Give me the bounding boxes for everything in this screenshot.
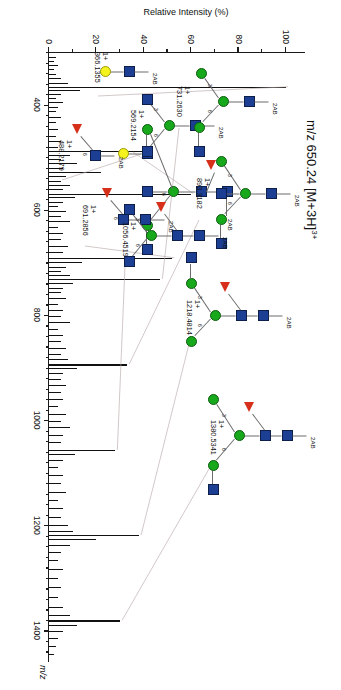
spectrum-peak — [49, 107, 58, 108]
fragment-731-charge: 1+ — [183, 86, 191, 117]
glcnac-square — [236, 310, 247, 321]
spectrum-peak — [49, 206, 58, 207]
fragment-1380-label: 1+1380.5341 — [208, 420, 225, 455]
fucose-triangle — [102, 188, 112, 198]
spectrum-peak — [49, 275, 70, 276]
linkage-label: 6 — [82, 153, 88, 156]
fragment-366-charge: 1+ — [101, 52, 109, 83]
fucose-triangle — [206, 160, 216, 170]
ms-spectrum-figure: 400600800100012001400020406080100 m/z Re… — [0, 0, 341, 690]
spectrum-peak — [49, 354, 61, 355]
spectrum-peak — [49, 262, 82, 263]
reducing-end-tag-2ab: 2AB — [222, 237, 229, 249]
glcnac-square — [282, 430, 293, 441]
glycosidic-bond — [255, 101, 269, 102]
spectrum-peak — [49, 117, 61, 118]
spectrum-peak — [49, 176, 66, 177]
spectrum-peak — [49, 172, 101, 173]
glycosidic-bond — [271, 435, 282, 436]
spectrum-peak — [49, 292, 61, 293]
reducing-end-tag-2ab: 2AB — [294, 195, 301, 207]
linkage-label: 3 — [135, 218, 141, 221]
glcnac-square — [140, 214, 151, 225]
spectrum-peak — [49, 221, 70, 222]
reducing-end-tag-2ab: 2AB — [227, 219, 234, 231]
spectrum-peak — [49, 185, 70, 186]
glcnac-square — [124, 204, 135, 215]
mannose-circle — [164, 120, 175, 131]
fragment-488-label: 1+488.2179 — [56, 140, 73, 171]
spectrum-title: m/z 650.24 [M+3H]3+ — [304, 120, 319, 239]
spectrum-peak — [49, 615, 70, 616]
spectrum-peak — [49, 368, 77, 369]
spectrum-peak — [49, 102, 63, 103]
mannose-circle — [218, 96, 229, 107]
glycosidic-bond — [227, 193, 240, 194]
spectrum-peak — [49, 189, 63, 190]
glycosidic-bond — [157, 235, 172, 236]
fragment-893-mz: 893.3182 — [194, 178, 202, 209]
spectrum-peak — [49, 379, 61, 380]
fragment-691-charge: 1+ — [89, 205, 97, 236]
glycosidic-bond — [293, 435, 307, 436]
spectrum-peak — [49, 283, 73, 284]
spectrum-peak — [49, 578, 58, 579]
fragment-1056-label: 1+1056.4519 — [120, 222, 137, 257]
fucose-triangle — [156, 202, 166, 212]
spectrum-peak — [49, 211, 66, 212]
fragment-488-charge: 1+ — [65, 140, 73, 171]
spectrum-peak — [49, 435, 63, 436]
spectrum-peak — [49, 531, 73, 532]
fucose-triangle — [244, 402, 254, 412]
fragment-488-mz: 488.2179 — [56, 140, 64, 171]
glycosidic-bond — [229, 101, 244, 102]
mannose-circle — [216, 214, 227, 225]
fragment-1056-charge: 1+ — [129, 222, 137, 257]
spectrum-peak — [49, 525, 68, 526]
glycosidic-bond — [277, 193, 291, 194]
glcnac-square — [216, 188, 227, 199]
spectrum-peak — [49, 61, 54, 62]
spectrum-peak-labeled — [49, 620, 120, 622]
spectrum-peak — [49, 57, 56, 58]
spectrum-peak — [49, 78, 61, 79]
mannose-circle — [186, 278, 197, 289]
spectrum-peak — [49, 227, 58, 228]
mannose-circle — [208, 394, 219, 405]
spectrum-peak — [49, 399, 63, 400]
mannose-circle — [240, 188, 251, 199]
glycosidic-bond — [251, 193, 266, 194]
spectrum-peak-labeled — [49, 279, 160, 281]
spectrum-peak — [49, 467, 58, 468]
glcnac-square — [186, 252, 197, 263]
glycosidic-bond — [221, 315, 236, 316]
fragment-731-mz: 731.2630 — [174, 86, 182, 117]
spectrum-peak — [49, 94, 61, 95]
linkage-label: 6 — [153, 134, 159, 137]
glcnac-square — [124, 256, 135, 267]
spectrum-peak — [49, 335, 63, 336]
spectrum-peak — [49, 329, 58, 330]
reducing-end-tag-2ab: 2AB — [310, 437, 317, 449]
reducing-end-tag-2ab: 2AB — [272, 103, 279, 115]
spectrum-peak — [49, 638, 58, 639]
spectrum-peak-labeled — [49, 364, 127, 366]
spectrum-peak — [49, 98, 56, 99]
glcnac-square — [142, 146, 153, 157]
glcnac-square — [142, 94, 153, 105]
spectrum-peak — [49, 607, 63, 608]
mannose-circle — [146, 230, 157, 241]
glycosidic-bond — [135, 71, 149, 72]
reducing-end-tag-2ab: 2AB — [286, 317, 293, 329]
fragment-569-label: 1+569.2154 — [128, 110, 145, 141]
fragment-569-mz: 569.2154 — [128, 110, 136, 141]
spectrum-peak — [49, 136, 56, 137]
spectrum-peak — [49, 316, 61, 317]
fragment-1380-mz: 1380.5341 — [208, 420, 216, 455]
spectrum-peak — [49, 310, 63, 311]
spectrum-peak — [49, 631, 63, 632]
glcnac-square — [244, 96, 255, 107]
spectrum-peak — [49, 625, 77, 626]
fragment-366-label: 1+366.1355 — [92, 52, 109, 83]
spectrum-peak — [49, 545, 70, 546]
